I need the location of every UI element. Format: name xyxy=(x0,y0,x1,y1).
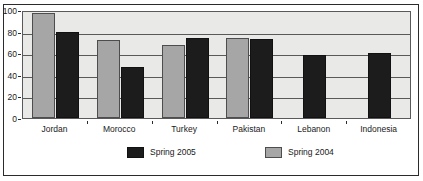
bar xyxy=(368,53,391,118)
y-tick-label: 40 xyxy=(8,72,17,81)
x-tick-label: Lebanon xyxy=(297,125,330,134)
plot-wrapper xyxy=(22,11,411,119)
gridline xyxy=(23,77,410,78)
x-tick-label: Turkey xyxy=(171,125,197,134)
legend-swatch xyxy=(265,147,282,158)
x-tick-label: Pakistan xyxy=(233,125,266,134)
bar xyxy=(32,13,55,118)
bar xyxy=(226,38,249,118)
plot-area xyxy=(22,11,411,119)
y-tick-label: 80 xyxy=(8,28,17,37)
gridline xyxy=(23,34,410,35)
legend-swatch xyxy=(127,147,144,158)
x-axis: JordanMoroccoTurkeyPakistanLebanonIndone… xyxy=(22,121,411,137)
y-tick-mark xyxy=(18,119,21,120)
gridline xyxy=(23,55,410,56)
x-tick-mark xyxy=(152,121,153,124)
y-tick-mark xyxy=(18,33,21,34)
chart-figure: 020406080100 JordanMoroccoTurkeyPakistan… xyxy=(0,0,423,181)
legend-entry: Spring 2005 xyxy=(127,146,196,159)
y-tick-mark xyxy=(18,76,21,77)
bar xyxy=(56,32,79,118)
x-tick-mark xyxy=(217,121,218,124)
y-tick-mark xyxy=(18,11,21,12)
x-tick-mark xyxy=(281,121,282,124)
x-tick-mark xyxy=(87,121,88,124)
bar xyxy=(121,67,144,118)
x-tick-mark xyxy=(346,121,347,124)
y-axis: 020406080100 xyxy=(0,11,21,119)
y-tick-label: 20 xyxy=(8,93,17,102)
y-tick-label: 0 xyxy=(12,115,17,124)
bar xyxy=(250,39,273,118)
bar xyxy=(97,40,120,118)
x-tick-label: Morocco xyxy=(103,125,136,134)
legend-label: Spring 2004 xyxy=(288,148,334,157)
bar xyxy=(162,45,185,118)
bar xyxy=(303,55,326,118)
bar xyxy=(186,38,209,118)
chart-legend: Spring 2005Spring 2004 xyxy=(22,146,411,164)
y-tick-label: 100 xyxy=(3,7,17,16)
legend-label: Spring 2005 xyxy=(150,148,196,157)
y-tick-mark xyxy=(18,97,21,98)
gridline xyxy=(23,98,410,99)
x-tick-label: Indonesia xyxy=(360,125,397,134)
legend-entry: Spring 2004 xyxy=(265,146,334,159)
y-tick-label: 60 xyxy=(8,50,17,59)
y-tick-mark xyxy=(18,54,21,55)
x-tick-label: Jordan xyxy=(41,125,67,134)
